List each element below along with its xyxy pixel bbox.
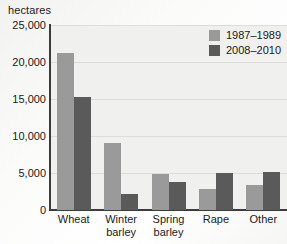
x-axis-category-labels: WheatWinter barleySpring barleyRapeOther [50, 213, 287, 238]
legend-item[interactable]: 1987–1989 [209, 29, 281, 41]
y-axis-tick-label: 25,000 [2, 19, 46, 31]
x-axis-category-label: Wheat [50, 213, 97, 238]
x-axis-category-label: Other [240, 213, 287, 238]
y-axis-tick-label: 0 [2, 204, 46, 216]
bar[interactable] [152, 174, 169, 210]
bar[interactable] [216, 173, 233, 210]
legend-label: 1987–1989 [226, 29, 281, 41]
bar[interactable] [199, 189, 216, 210]
bar-group [97, 25, 144, 210]
bar[interactable] [246, 185, 263, 210]
bar[interactable] [121, 194, 138, 210]
legend-swatch-icon [209, 30, 220, 41]
legend-label: 2008–2010 [226, 44, 281, 56]
y-axis-tick-label: 20,000 [2, 56, 46, 68]
bar[interactable] [74, 97, 91, 210]
legend-item[interactable]: 2008–2010 [209, 44, 281, 56]
x-axis-category-label: Spring barley [145, 213, 192, 238]
bar-group [145, 25, 192, 210]
chart-legend: 1987–19892008–2010 [209, 29, 281, 56]
x-axis-category-label: Rape [192, 213, 239, 238]
bar[interactable] [104, 143, 121, 210]
y-axis-tick-label: 5,000 [2, 167, 46, 179]
x-axis-category-label: Winter barley [97, 213, 144, 238]
y-axis-tick-label: 10,000 [2, 130, 46, 142]
bar-chart-figure: hectares 05,00010,00015,00020,00025,000 … [0, 0, 287, 244]
bar-group [50, 25, 97, 210]
y-axis-tick-labels: 05,00010,00015,00020,00025,000 [0, 0, 46, 244]
legend-swatch-icon [209, 45, 220, 56]
bar[interactable] [263, 172, 280, 210]
bar[interactable] [57, 53, 74, 210]
bar[interactable] [169, 182, 186, 210]
y-axis-tick-label: 15,000 [2, 93, 46, 105]
